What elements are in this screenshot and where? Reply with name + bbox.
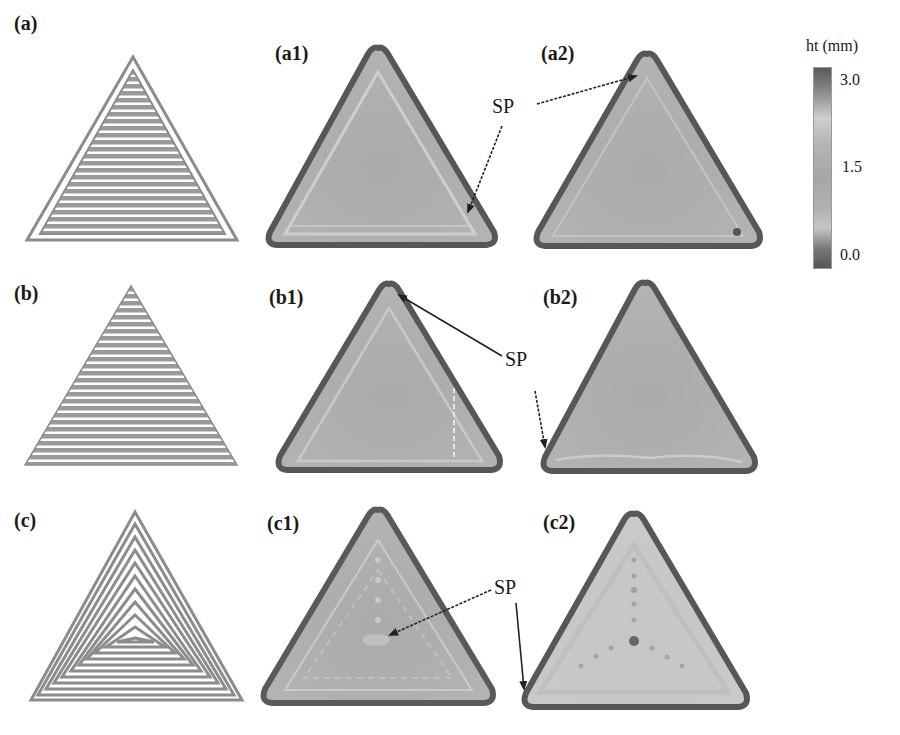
heightmap-b2 <box>544 283 755 471</box>
heightmap-a2 <box>537 54 760 246</box>
toolpath-c <box>31 512 242 700</box>
toolpath-b <box>25 286 237 465</box>
heightmap-b1 <box>279 284 500 470</box>
heightmap-a1 <box>269 48 495 245</box>
heightmap-c1 <box>264 510 493 703</box>
heightmap-c2 <box>525 514 747 707</box>
toolpath-a <box>27 57 237 240</box>
